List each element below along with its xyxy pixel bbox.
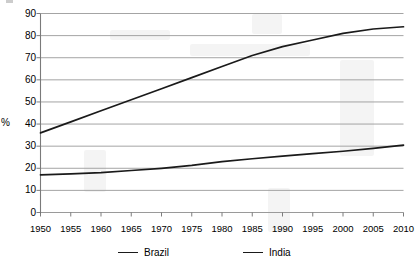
legend-line-swatch — [118, 252, 138, 253]
x-axis-tick-label: 1950 — [25, 223, 57, 234]
x-axis-tick-label: 1985 — [236, 223, 268, 234]
x-axis-tick-label: 1995 — [297, 223, 329, 234]
legend-line-swatch — [243, 252, 263, 253]
x-axis-tick-label: 2005 — [357, 223, 389, 234]
x-axis-tick-label: 1970 — [146, 223, 178, 234]
x-axis-tick-label: 2000 — [327, 223, 359, 234]
legend-label: India — [269, 247, 291, 258]
x-axis-tick-label: 2010 — [388, 223, 419, 234]
legend-item-india[interactable]: India — [243, 245, 291, 259]
legend-label: Brazil — [144, 247, 169, 258]
x-axis-tick-label: 1965 — [115, 223, 147, 234]
chart-legend: BrazilIndia — [0, 245, 413, 259]
x-axis-tick-label: 1990 — [267, 223, 299, 234]
x-axis-tick-label: 1980 — [206, 223, 238, 234]
x-axis-tick-label: 1955 — [55, 223, 87, 234]
legend-item-brazil[interactable]: Brazil — [118, 245, 169, 259]
x-axis-tick-label: 1975 — [176, 223, 208, 234]
x-axis-tick-label: 1960 — [85, 223, 117, 234]
